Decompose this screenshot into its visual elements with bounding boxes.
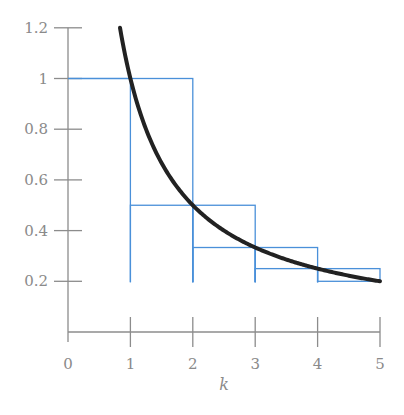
axis-labels: 0.20.40.60.811.2012345k [24,19,385,394]
riemann-rect [255,269,317,332]
chart: 0.20.40.60.811.2012345k [0,0,404,415]
axes [54,28,380,347]
x-tick-label: 0 [63,355,73,373]
curve-line [120,28,380,282]
y-tick-label: 0.6 [24,171,48,189]
y-tick-label: 0.4 [24,222,48,240]
y-tick-label: 0.8 [24,120,48,138]
riemann-rect [193,205,255,332]
x-tick-label: 2 [188,355,198,373]
riemann-rect [130,205,192,332]
x-tick-label: 5 [375,355,385,373]
y-tick-label: 1.2 [24,19,48,37]
x-tick-label: 1 [126,355,136,373]
x-axis-title: k [219,375,229,394]
x-tick-label: 4 [313,355,323,373]
y-tick-label: 1 [38,70,48,88]
riemann-rect [193,248,255,332]
riemann-rect [318,281,380,332]
curve-1-over-x [120,28,380,282]
x-tick-label: 3 [250,355,260,373]
riemann-rectangles [68,79,380,333]
y-tick-label: 0.2 [24,272,48,290]
